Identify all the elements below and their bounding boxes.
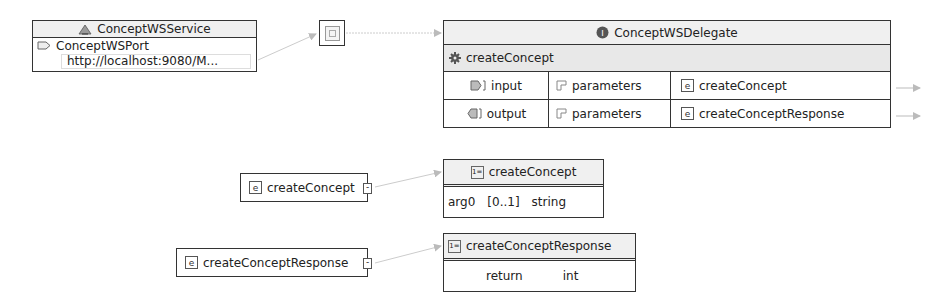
type-box-createConceptResponse[interactable]: 1= createConceptResponse return int	[443, 233, 636, 292]
porttype-title: ConceptWSDelegate	[614, 26, 738, 40]
field-row[interactable]: return int	[444, 261, 635, 290]
service-title: ConceptWSService	[97, 22, 210, 36]
collapse-toggle[interactable]: -	[363, 183, 372, 194]
type-header[interactable]: 1= createConceptResponse	[444, 234, 635, 261]
address-field[interactable]: http://localhost:9080/M...	[61, 54, 251, 69]
field-name: arg0	[448, 195, 475, 209]
input-element[interactable]: createConcept	[699, 79, 787, 93]
type-header[interactable]: 1= createConcept	[444, 160, 603, 187]
complex-type-icon: 1=	[448, 240, 461, 253]
interface-icon: I	[596, 26, 609, 39]
part-icon	[556, 108, 567, 119]
port-name: ConceptWSPort	[56, 39, 149, 53]
field-type: string	[532, 195, 566, 209]
element-box-createConcept[interactable]: e createConcept -	[240, 173, 368, 202]
output-label: output	[487, 107, 527, 121]
element-icon: e	[681, 107, 694, 120]
element-icon: e	[249, 181, 262, 194]
output-element[interactable]: createConceptResponse	[699, 107, 844, 121]
address-text: http://localhost:9080/M...	[67, 54, 218, 68]
output-part: parameters	[572, 107, 642, 121]
field-name: return	[486, 269, 523, 283]
service-icon	[78, 24, 92, 35]
output-icon	[466, 107, 482, 120]
porttype-box[interactable]: I ConceptWSDelegate createConcept input …	[443, 20, 891, 128]
operation-row[interactable]: createConcept	[444, 45, 890, 72]
collapse-toggle[interactable]: -	[363, 258, 372, 269]
element-icon: e	[681, 79, 694, 92]
type-name: createConcept	[489, 165, 577, 179]
operation-name: createConcept	[466, 51, 554, 65]
element-icon: e	[185, 256, 198, 269]
binding-box[interactable]	[319, 20, 345, 46]
port-icon	[37, 41, 51, 50]
element-name: createConceptResponse	[203, 256, 348, 270]
binding-icon	[325, 26, 340, 41]
svg-text:I: I	[601, 28, 604, 38]
complex-type-icon: 1=	[471, 166, 484, 179]
field-cardinality: [0..1]	[487, 195, 519, 209]
output-row[interactable]: output parameters e createConceptRespons…	[444, 100, 890, 127]
type-name: createConceptResponse	[466, 239, 611, 253]
element-name: createConcept	[267, 181, 355, 195]
input-row[interactable]: input parameters e createConcept	[444, 72, 890, 100]
element-box-createConceptResponse[interactable]: e createConceptResponse -	[176, 248, 368, 277]
field-type: int	[563, 269, 579, 283]
service-header[interactable]: ConceptWSService	[33, 21, 256, 38]
field-row[interactable]: arg0 [0..1] string	[444, 187, 603, 216]
part-icon	[556, 80, 567, 91]
service-box[interactable]: ConceptWSService ConceptWSPort http://lo…	[32, 20, 257, 72]
type-box-createConcept[interactable]: 1= createConcept arg0 [0..1] string	[443, 159, 604, 218]
input-label: input	[491, 79, 522, 93]
operation-gear-icon	[449, 52, 461, 64]
port-row[interactable]: ConceptWSPort	[33, 38, 256, 53]
input-part: parameters	[572, 79, 642, 93]
input-icon	[470, 79, 486, 92]
porttype-header[interactable]: I ConceptWSDelegate	[444, 21, 890, 45]
